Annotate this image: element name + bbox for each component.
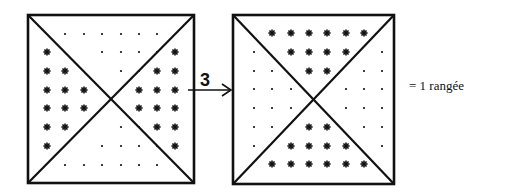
right-square [233, 15, 394, 184]
left-square [28, 15, 194, 183]
legend-label: = 1 rangée [409, 78, 464, 94]
arrow-count-label: 3 [200, 70, 210, 91]
diagram-canvas [0, 0, 517, 195]
marks-layer [43, 29, 383, 167]
